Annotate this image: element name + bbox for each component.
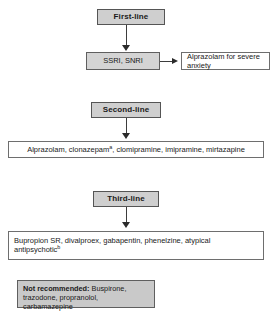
tier-header-first-line: First-line <box>97 9 165 25</box>
treatment-box-third-line-drugs: Bupropion SR, divalproex, gabapentin, ph… <box>14 236 210 254</box>
tier-header-first-line-label: First-line <box>114 12 149 22</box>
tier-header-second-line: Second-line <box>91 102 161 118</box>
treatment-box-second-line: Alprazolam, clonazepama, clomipramine, i… <box>8 141 264 158</box>
branch-box-severe-anxiety: Alprazolam for severe anxiety <box>181 52 270 70</box>
tier-header-second-line-label: Second-line <box>103 105 149 115</box>
branch-box-severe-anxiety-label: Alprazolam for severe anxiety <box>187 52 264 70</box>
footnote-marker-b: b <box>57 244 60 250</box>
tier-header-third-line-label: Third-line <box>107 194 144 204</box>
connector-second-line-arrowhead <box>122 133 130 139</box>
treatment-box-first-line-label: SSRI, SNRI <box>103 56 143 65</box>
not-recommended-box: Not recommended: Buspirone, trazodone, p… <box>17 280 155 308</box>
connector-first-line-vertical <box>126 25 127 46</box>
connector-first-line-branch-arrowhead <box>172 58 178 64</box>
treatment-box-second-line-label: Alprazolam, clonazepama, clomipramine, i… <box>27 145 245 154</box>
connector-first-line-arrowhead <box>122 45 130 51</box>
treatment-box-third-line: Bupropion SR, divalproex, gabapentin, ph… <box>8 231 264 260</box>
treatment-box-first-line: SSRI, SNRI <box>86 52 160 70</box>
treatment-box-second-line-drugs-rest: , clomipramine, imipramine, mirtazapine <box>112 145 245 154</box>
treatment-algorithm-diagram: First-line SSRI, SNRI Alprazolam for sev… <box>0 0 271 317</box>
connector-third-line-arrowhead <box>122 222 130 228</box>
tier-header-third-line: Third-line <box>93 191 159 207</box>
treatment-box-third-line-label: Bupropion SR, divalproex, gabapentin, ph… <box>14 236 258 254</box>
treatment-box-second-line-drugs-primary: Alprazolam, clonazepam <box>27 145 109 154</box>
not-recommended-label: Not recommended: <box>23 284 90 293</box>
not-recommended-text: Not recommended: Buspirone, trazodone, p… <box>23 284 149 312</box>
